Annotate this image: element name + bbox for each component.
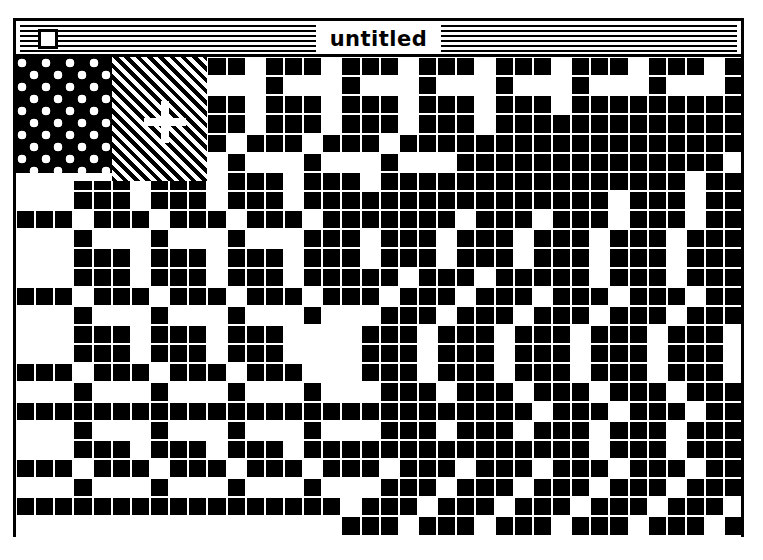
pixel-cell[interactable] bbox=[380, 516, 399, 535]
pixel-cell[interactable] bbox=[169, 402, 188, 421]
pixel-cell[interactable] bbox=[380, 382, 399, 401]
pixel-cell[interactable] bbox=[93, 402, 112, 421]
pixel-cell[interactable] bbox=[227, 191, 246, 210]
pixel-cell[interactable] bbox=[322, 497, 341, 516]
pixel-cell[interactable] bbox=[590, 229, 609, 248]
pixel-cell[interactable] bbox=[322, 325, 341, 344]
pixel-cell[interactable] bbox=[475, 57, 494, 76]
pixel-cell[interactable] bbox=[284, 516, 303, 535]
pixel-cell[interactable] bbox=[131, 268, 150, 287]
pixel-cell[interactable] bbox=[112, 229, 131, 248]
pixel-cell[interactable] bbox=[456, 229, 475, 248]
pixel-cell[interactable] bbox=[303, 363, 322, 382]
pixel-cell[interactable] bbox=[35, 248, 54, 267]
pixel-cell[interactable] bbox=[322, 57, 341, 76]
pixel-cell[interactable] bbox=[514, 306, 533, 325]
pixel-cell[interactable] bbox=[284, 248, 303, 267]
pixel-cell[interactable] bbox=[322, 287, 341, 306]
pixel-cell[interactable] bbox=[514, 210, 533, 229]
pixel-cell[interactable] bbox=[667, 153, 686, 172]
pixel-cell[interactable] bbox=[571, 114, 590, 133]
pixel-cell[interactable] bbox=[705, 287, 724, 306]
pixel-cell[interactable] bbox=[456, 421, 475, 440]
pixel-cell[interactable] bbox=[73, 268, 92, 287]
pixel-cell[interactable] bbox=[456, 95, 475, 114]
pixel-cell[interactable] bbox=[284, 382, 303, 401]
pixel-cell[interactable] bbox=[112, 402, 131, 421]
pixel-cell[interactable] bbox=[303, 268, 322, 287]
pixel-cell[interactable] bbox=[93, 325, 112, 344]
pixel-cell[interactable] bbox=[456, 134, 475, 153]
pixel-cell[interactable] bbox=[552, 76, 571, 95]
pixel-cell[interactable] bbox=[667, 344, 686, 363]
pixel-cell[interactable] bbox=[131, 325, 150, 344]
pixel-cell[interactable] bbox=[16, 382, 35, 401]
pixel-cell[interactable] bbox=[322, 440, 341, 459]
pixel-cell[interactable] bbox=[227, 325, 246, 344]
pixel-cell[interactable] bbox=[361, 172, 380, 191]
window-title-bar[interactable]: untitled bbox=[16, 21, 741, 57]
pixel-cell[interactable] bbox=[188, 325, 207, 344]
pixel-cell[interactable] bbox=[16, 402, 35, 421]
pixel-cell[interactable] bbox=[246, 325, 265, 344]
pixel-cell[interactable] bbox=[475, 325, 494, 344]
pixel-cell[interactable] bbox=[705, 191, 724, 210]
pixel-cell[interactable] bbox=[418, 478, 437, 497]
pixel-cell[interactable] bbox=[609, 382, 628, 401]
pixel-cell[interactable] bbox=[456, 114, 475, 133]
pixel-cell[interactable] bbox=[724, 210, 741, 229]
pixel-cell[interactable] bbox=[724, 402, 741, 421]
pixel-cell[interactable] bbox=[380, 172, 399, 191]
pixel-cell[interactable] bbox=[533, 344, 552, 363]
pixel-cell[interactable] bbox=[54, 268, 73, 287]
pixel-cell[interactable] bbox=[284, 478, 303, 497]
pixel-cell[interactable] bbox=[93, 287, 112, 306]
pixel-cell[interactable] bbox=[207, 153, 226, 172]
pixel-cell[interactable] bbox=[667, 114, 686, 133]
pixel-cell[interactable] bbox=[341, 516, 360, 535]
pixel-cell[interactable] bbox=[399, 497, 418, 516]
pixel-cell[interactable] bbox=[16, 306, 35, 325]
pixel-cell[interactable] bbox=[361, 229, 380, 248]
pixel-cell[interactable] bbox=[648, 153, 667, 172]
pixel-cell[interactable] bbox=[227, 421, 246, 440]
pixel-cell[interactable] bbox=[533, 382, 552, 401]
pixel-cell[interactable] bbox=[667, 402, 686, 421]
pixel-cell[interactable] bbox=[131, 459, 150, 478]
pixel-cell[interactable] bbox=[265, 229, 284, 248]
pixel-cell[interactable] bbox=[207, 363, 226, 382]
pixel-cell[interactable] bbox=[169, 363, 188, 382]
pixel-cell[interactable] bbox=[571, 402, 590, 421]
pixel-cell[interactable] bbox=[207, 325, 226, 344]
pixel-cell[interactable] bbox=[437, 497, 456, 516]
pixel-cell[interactable] bbox=[533, 325, 552, 344]
pixel-cell[interactable] bbox=[552, 382, 571, 401]
pixel-cell[interactable] bbox=[418, 306, 437, 325]
pixel-cell[interactable] bbox=[552, 440, 571, 459]
pixel-cell[interactable] bbox=[552, 459, 571, 478]
pixel-cell[interactable] bbox=[303, 191, 322, 210]
pixel-cell[interactable] bbox=[437, 153, 456, 172]
pixel-cell[interactable] bbox=[207, 76, 226, 95]
pixel-cell[interactable] bbox=[399, 134, 418, 153]
pixel-cell[interactable] bbox=[35, 497, 54, 516]
pixel-cell[interactable] bbox=[73, 287, 92, 306]
pixel-cell[interactable] bbox=[418, 325, 437, 344]
pixel-cell[interactable] bbox=[571, 172, 590, 191]
pixel-cell[interactable] bbox=[418, 172, 437, 191]
pixel-cell[interactable] bbox=[322, 478, 341, 497]
pixel-cell[interactable] bbox=[629, 57, 648, 76]
pixel-cell[interactable] bbox=[265, 134, 284, 153]
pixel-cell[interactable] bbox=[322, 421, 341, 440]
pixel-cell[interactable] bbox=[284, 268, 303, 287]
pixel-cell[interactable] bbox=[227, 344, 246, 363]
pixel-cell[interactable] bbox=[514, 248, 533, 267]
pixel-cell[interactable] bbox=[533, 363, 552, 382]
pixel-cell[interactable] bbox=[495, 478, 514, 497]
pixel-cell[interactable] bbox=[552, 306, 571, 325]
pixel-cell[interactable] bbox=[284, 134, 303, 153]
pixel-cell[interactable] bbox=[590, 382, 609, 401]
pixel-cell[interactable] bbox=[246, 57, 265, 76]
pixel-cell[interactable] bbox=[399, 95, 418, 114]
pixel-cell[interactable] bbox=[188, 421, 207, 440]
